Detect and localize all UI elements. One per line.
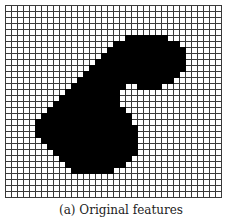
filled-cell-run [137,83,162,90]
feature-grid-figure [5,5,221,197]
figure-caption: (a) Original features [0,203,242,217]
filled-cell-run [71,167,114,174]
